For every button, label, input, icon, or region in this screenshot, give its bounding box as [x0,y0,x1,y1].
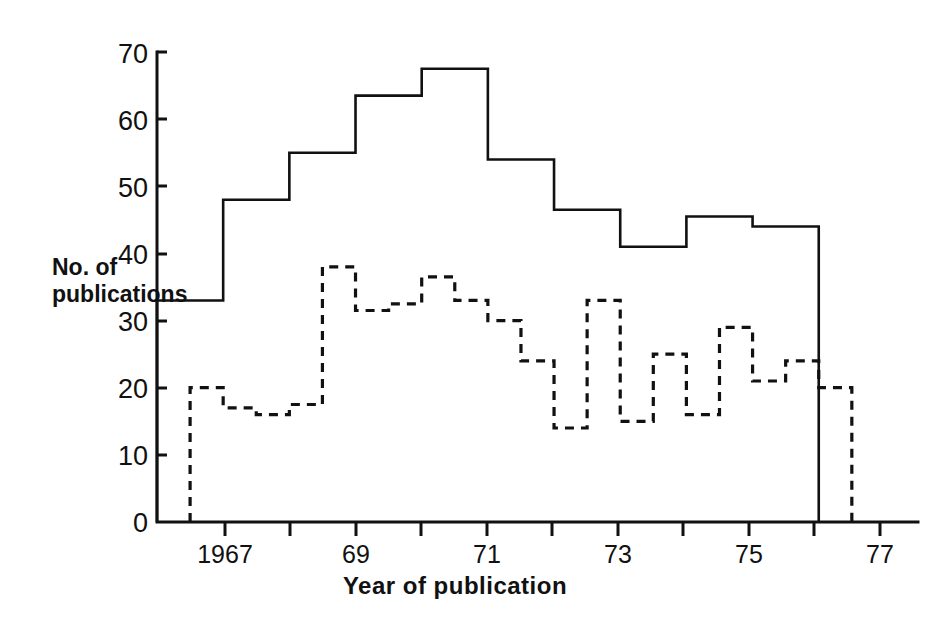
y-tick-label-50: 50 [118,173,148,203]
publications-histogram-figure: No. of publications 0 10 20 30 40 50 60 … [0,0,941,625]
y-tick-label-10: 10 [118,441,148,471]
y-tick-label-40: 40 [118,240,148,270]
y-tick-label-20: 20 [118,374,148,404]
x-tick-label-71: 71 [473,540,501,568]
y-axis-title-line1: No. of [52,254,117,280]
y-axis-title-line2: publications [52,281,187,307]
x-tick-label-75: 75 [735,540,763,568]
y-tick-label-60: 60 [118,106,148,136]
y-tick-label-30: 30 [118,307,148,337]
x-tick-label-1967: 1967 [197,540,253,568]
x-axis-title: Year of publication [343,572,567,599]
y-tick-label-70: 70 [118,39,148,69]
y-tick-label-0: 0 [133,508,148,538]
x-tick-label-77: 77 [866,540,894,568]
chart-svg: No. of publications 0 10 20 30 40 50 60 … [0,0,941,625]
x-tick-label-69: 69 [342,540,370,568]
x-tick-label-73: 73 [604,540,632,568]
